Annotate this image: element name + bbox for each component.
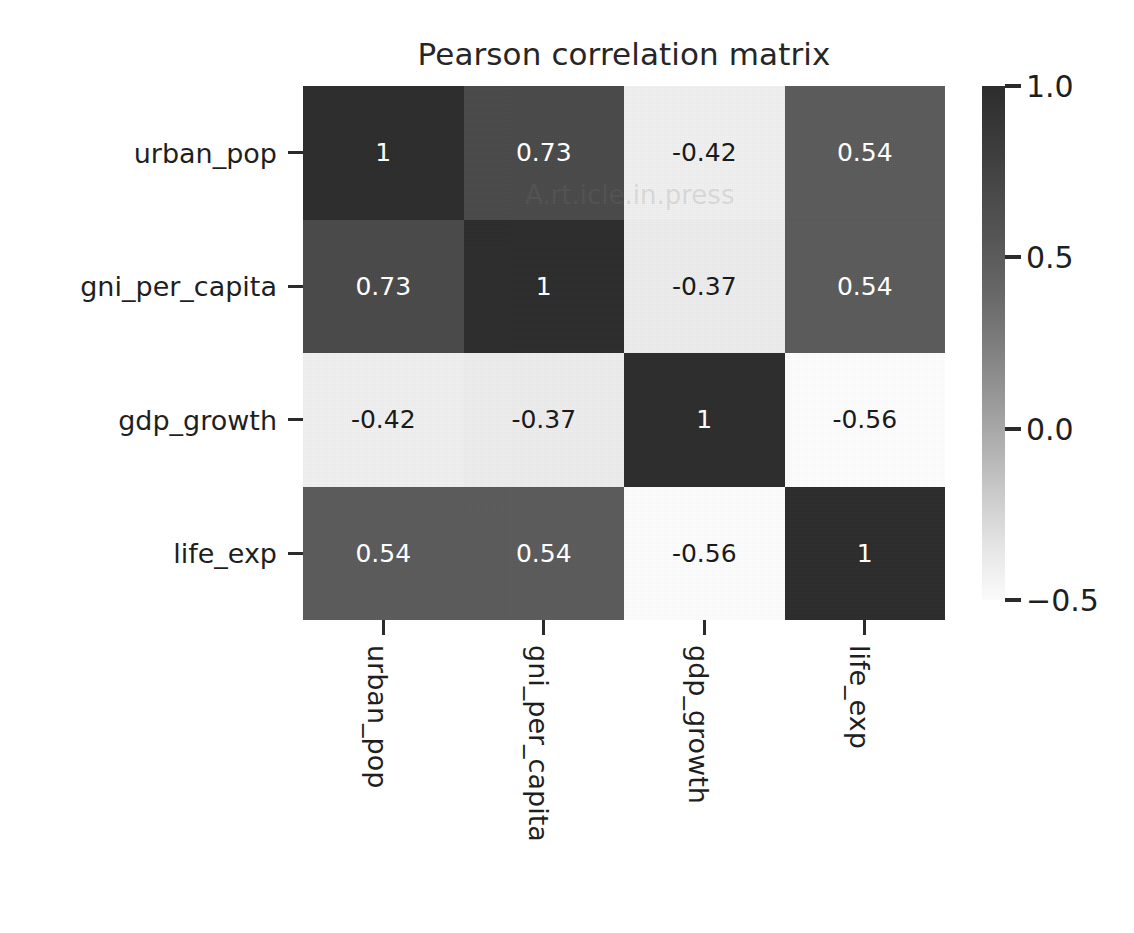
heatmap-cell-value: -0.37	[511, 407, 576, 432]
x-axis-tick	[382, 620, 385, 635]
heatmap-cell-value: 0.54	[516, 541, 572, 566]
x-axis-label-gni_per_capita: gni_per_capita	[523, 645, 554, 842]
colorbar-tick	[1005, 84, 1021, 88]
y-axis-label-gni_per_capita: gni_per_capita	[80, 271, 277, 302]
heatmap-cell: 1	[624, 353, 785, 487]
heatmap-cell-value: -0.56	[672, 541, 737, 566]
x-axis-label-urban_pop: urban_pop	[362, 645, 393, 788]
heatmap-cell: 1	[464, 220, 625, 354]
heatmap-cell: -0.42	[303, 353, 464, 487]
x-axis-label-gdp_growth: gdp_growth	[683, 645, 714, 804]
y-axis-label-gdp_growth: gdp_growth	[118, 404, 277, 435]
heatmap-cell: 0.73	[464, 86, 625, 220]
y-axis-label-life_exp: life_exp	[173, 538, 277, 569]
heatmap-cell: 0.54	[303, 487, 464, 621]
y-axis-tick	[288, 552, 303, 555]
heatmap-cell-value: 0.73	[355, 274, 411, 299]
heatmap-cell: -0.56	[624, 487, 785, 621]
colorbar-tick-label: 0.0	[1026, 411, 1074, 446]
heatmap-cell: 0.54	[785, 220, 946, 354]
colorbar-tick	[1005, 427, 1021, 431]
heatmap-cell-value: 1	[536, 274, 552, 299]
x-axis-tick	[703, 620, 706, 635]
x-axis-tick	[863, 620, 866, 635]
heatmap-cell-value: 1	[857, 541, 873, 566]
colorbar-tick	[1005, 598, 1021, 602]
correlation-matrix-figure: Pearson correlation matrix A.rt.icle.in.…	[0, 0, 1134, 933]
colorbar-tick-label: 1.0	[1026, 69, 1074, 104]
heatmap-cell-value: 1	[696, 407, 712, 432]
heatmap-cell-value: 0.73	[516, 140, 572, 165]
colorbar-tick	[1005, 255, 1021, 259]
heatmap-cell: 0.54	[464, 487, 625, 621]
x-axis-tick	[542, 620, 545, 635]
heatmap-cell-value: -0.37	[672, 274, 737, 299]
heatmap-cell-value: 0.54	[837, 274, 893, 299]
heatmap-cell: 0.54	[785, 86, 946, 220]
heatmap-grid: 10.73-0.420.540.731-0.370.54-0.42-0.371-…	[303, 86, 945, 620]
heatmap-cell-value: 1	[375, 140, 391, 165]
y-axis-label-urban_pop: urban_pop	[134, 137, 277, 168]
y-axis-tick	[288, 418, 303, 421]
heatmap-cell: 1	[303, 86, 464, 220]
colorbar-tick-label: 0.5	[1026, 240, 1074, 275]
heatmap-cell: 1	[785, 487, 946, 621]
heatmap-cell-value: 0.54	[355, 541, 411, 566]
y-axis-tick	[288, 151, 303, 154]
page-title: Pearson correlation matrix	[303, 36, 945, 72]
y-axis-tick	[288, 285, 303, 288]
heatmap-cell: -0.56	[785, 353, 946, 487]
heatmap-cell-value: 0.54	[837, 140, 893, 165]
heatmap-cell: -0.37	[464, 353, 625, 487]
heatmap-cell: 0.73	[303, 220, 464, 354]
colorbar-tick-label: −0.5	[1026, 583, 1099, 618]
colorbar-gradient	[982, 86, 1005, 600]
heatmap-cell: -0.37	[624, 220, 785, 354]
heatmap-cell: -0.42	[624, 86, 785, 220]
x-axis-label-life_exp: life_exp	[844, 645, 875, 749]
heatmap-cell-value: -0.42	[351, 407, 416, 432]
heatmap-cell-value: -0.56	[832, 407, 897, 432]
heatmap-cell-value: -0.42	[672, 140, 737, 165]
